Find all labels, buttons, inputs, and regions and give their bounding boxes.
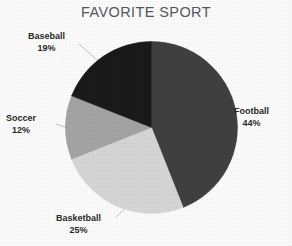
- slice-label-basketball-name: Basketball: [56, 213, 101, 225]
- slice-label-baseball-name: Baseball: [28, 31, 65, 43]
- slice-label-football: Football 44%: [234, 106, 269, 129]
- pie-slices-group: [66, 42, 238, 214]
- slice-label-basketball-percent: 25%: [56, 225, 101, 237]
- slice-label-soccer-name: Soccer: [6, 113, 36, 125]
- slice-label-baseball-percent: 19%: [28, 43, 65, 55]
- slice-label-football-percent: 44%: [234, 118, 269, 130]
- slice-label-soccer-percent: 12%: [6, 125, 36, 137]
- slice-label-basketball: Basketball 25%: [56, 213, 101, 236]
- slice-label-baseball: Baseball 19%: [28, 31, 65, 54]
- pie-chart-figure: FAVORITE SPORT Football 44% Basketball 2…: [0, 0, 292, 246]
- slice-label-football-name: Football: [234, 106, 269, 118]
- slice-label-soccer: Soccer 12%: [6, 113, 36, 136]
